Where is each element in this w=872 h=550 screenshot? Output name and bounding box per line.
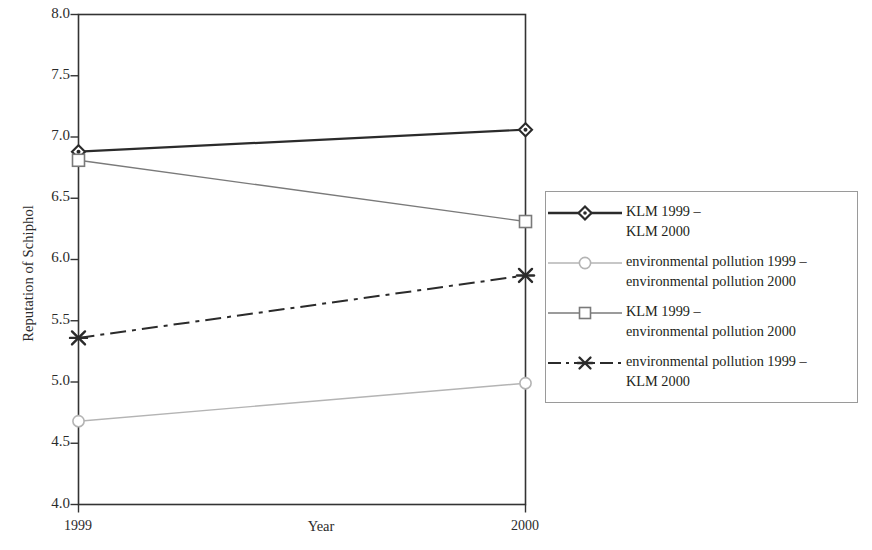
data-point-marker [73,416,84,427]
y-tick-marks [71,15,79,505]
chart-legend: KLM 1999 – KLM 2000 environmental pollut… [545,191,858,403]
legend-label: KLM 1999 – KLM 2000 [624,202,701,241]
data-point-marker [519,123,532,136]
legend-entry-klm-klm[interactable]: KLM 1999 – KLM 2000 [546,202,701,241]
legend-label: KLM 1999 – environmental pollution 2000 [624,302,796,341]
data-point-marker [520,216,532,228]
legend-entry-pollution-pollution[interactable]: environmental pollution 1999 – environme… [546,252,807,291]
series-line [73,154,532,227]
series-line [70,269,534,344]
legend-entry-pollution-klm[interactable]: environmental pollution 1999 – KLM 2000 [546,352,807,391]
x-star-icon [546,354,624,372]
line-chart-figure: Reputation of Schiphol 8.0 7.5 7.0 6.5 6… [0,0,872,550]
x-tick-marks [79,505,526,513]
diamond-icon [546,204,624,222]
legend-label: environmental pollution 1999 – KLM 2000 [624,352,807,391]
circle-icon [546,254,624,272]
plot-frame [79,15,526,505]
data-point-marker [520,378,531,389]
square-icon [546,304,624,322]
data-series-layer [70,123,534,427]
series-line [72,123,532,158]
data-point-marker [73,154,85,166]
series-line [73,378,531,427]
legend-entry-klm-pollution[interactable]: KLM 1999 – environmental pollution 2000 [546,302,796,341]
legend-label: environmental pollution 1999 – environme… [624,252,807,291]
